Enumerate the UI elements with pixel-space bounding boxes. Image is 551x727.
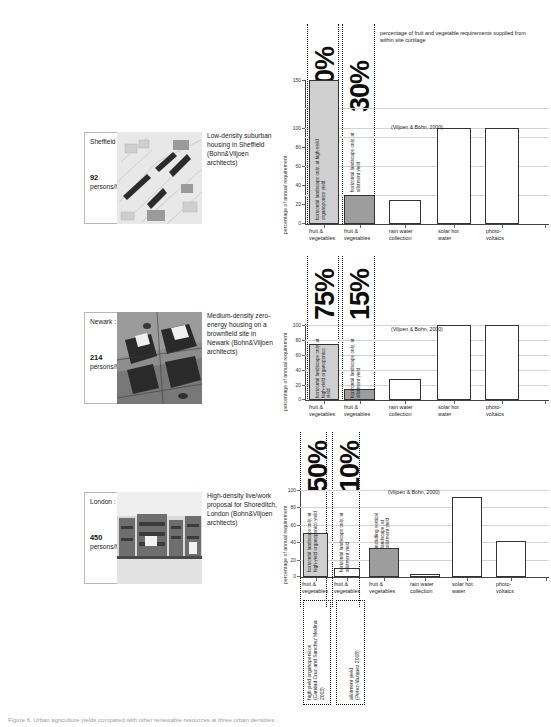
xlabel-3: solar hot water <box>438 228 470 241</box>
x-axis <box>305 400 549 401</box>
case-study-london: London : 450 persons/ha <box>0 470 280 645</box>
plot-area-2: 0 20 40 60 80 100 horizontal landscape o… <box>305 324 549 401</box>
ytick-100: 100 <box>285 323 301 328</box>
chart-source-note: (Viljoen & Bohn, 2000) <box>388 489 468 496</box>
photo-model-london-image <box>117 492 202 584</box>
bar-rain-water <box>410 574 440 577</box>
ytick-0: 0 <box>280 574 296 579</box>
xlabel-4: photo- voltaics <box>486 228 518 241</box>
ytick-80: 80 <box>285 338 301 343</box>
footnote-allotment: allotment yield (Perez-Vazquez 2008) <box>348 604 361 700</box>
bar-photovoltaics <box>485 128 519 224</box>
xlabel-2: fruit & vegetables <box>369 581 401 594</box>
ytick-100: 100 <box>280 488 296 493</box>
aerial-plan-sheffield-image <box>117 132 202 224</box>
case-caption: Low-density suburban housing in Sheffiel… <box>207 131 279 167</box>
bar-rain-water <box>389 379 421 400</box>
x-axis <box>305 224 549 225</box>
bar-note-1: horizontal landscape only, at high-yield… <box>315 338 332 398</box>
y-axis <box>300 488 301 578</box>
bar-rain-water <box>389 200 421 224</box>
ytick-0: 0 <box>285 221 301 226</box>
aerial-photo-newark-image <box>117 312 202 404</box>
xlabel-1: fruit & vegetables <box>344 404 376 417</box>
case-density-value: 214 <box>90 353 102 362</box>
case-study-newark: Newark : 214 persons/ha <box>0 290 280 465</box>
bar-photovoltaics <box>485 325 519 400</box>
ytick-150: 150 <box>285 78 301 83</box>
bar-note-1: horizontal landscape only, at high-yield… <box>307 506 318 572</box>
ytick-100: 100 <box>285 126 301 131</box>
ytick-40: 40 <box>280 540 296 545</box>
y-axis <box>305 80 306 225</box>
chart-london: percentage of annual requirement 50% 10%… <box>280 432 551 612</box>
bar-fruit-veg-allotment <box>344 195 375 224</box>
ytick-40: 40 <box>285 368 301 373</box>
ytick-40: 40 <box>285 183 301 188</box>
xlabel-2: rain water collection <box>389 228 423 241</box>
xlabel-4: solar hot water <box>452 581 482 594</box>
bar-note-2: horizontal landscape only, at allotment … <box>339 506 350 572</box>
bar-solar-hot-water <box>437 325 471 400</box>
xlabel-5: photo- voltaics <box>496 581 526 594</box>
xlabel-0: fruit & vegetables <box>309 228 341 241</box>
gridline-80 <box>300 507 549 508</box>
figure-bottom-caption: Figure 6. Urban agriculture yields compa… <box>8 716 528 725</box>
y-axis <box>305 324 306 401</box>
ytick-60: 60 <box>285 164 301 169</box>
case-caption: Medium-density zero-energy housing on a … <box>207 311 279 356</box>
case-density-value: 450 <box>90 533 102 542</box>
ytick-60: 60 <box>280 523 296 528</box>
bar-note-3: including vertical landscape, at allotme… <box>374 506 391 548</box>
ytick-80: 80 <box>285 145 301 150</box>
bar-note-2: horizontal landscape only, at allotment … <box>350 338 361 398</box>
figure-page: Sheffield : 92 persons/ha <box>0 0 551 727</box>
xlabel-0: fruit & vegetables <box>302 581 332 594</box>
gridline-100 <box>305 108 549 109</box>
xlabel-1: fruit & vegetables <box>344 228 376 241</box>
bar-photovoltaics <box>496 541 526 577</box>
case-density-value: 92 <box>90 173 98 182</box>
xlabel-4: photo- voltaics <box>486 404 518 417</box>
plot-area-3: 0 20 40 60 80 100 horizontal landscape o… <box>300 488 549 578</box>
chart-newark: percentage of annual requirement 75% 15%… <box>280 256 551 426</box>
plot-area-1: 0 20 40 60 80 100 150 horizontal landsca… <box>305 80 549 225</box>
big-percent-1: 75% <box>310 258 341 320</box>
xlabel-2: rain water collection <box>389 404 423 417</box>
big-percent-1: 50% <box>303 434 334 492</box>
chart-source-note: (Viljoen & Bohn, 2000) <box>391 124 447 131</box>
chart-sheffield: percentage of annual requirement 150% 30… <box>280 24 551 254</box>
ytick-20: 20 <box>280 558 296 563</box>
ytick-20: 20 <box>285 383 301 388</box>
chart-source-note: (Viljoen & Bohn, 2000) <box>391 326 447 333</box>
bar-fruit-veg-vertical <box>369 548 399 577</box>
xlabel-1: fruit & vegetables <box>334 581 364 594</box>
bar-note-1: horizontal landscape only, at high-yield… <box>315 112 326 220</box>
gridline-60 <box>300 525 549 526</box>
chart-header-note: percentage of fruit and vegetable requir… <box>380 30 540 44</box>
big-percent-2: 15% <box>345 258 376 320</box>
xlabel-3: solar hot water <box>438 404 470 417</box>
footnote-high-yield: high yield organoponicos (Caridad Cruz a… <box>306 604 325 700</box>
big-percent-2: 10% <box>335 434 366 492</box>
ytick-80: 80 <box>280 505 296 510</box>
y-axis-label: percentage of annual requirement <box>282 484 288 584</box>
xlabel-3: rain water collection <box>410 581 442 594</box>
case-study-sheffield: Sheffield : 92 persons/ha <box>0 110 280 285</box>
ytick-0: 0 <box>285 397 301 402</box>
bar-note-2: horizontal landscape only, at allotment … <box>350 122 361 192</box>
case-caption: High-density live/work proposal for Shor… <box>207 491 279 527</box>
bar-solar-hot-water <box>452 497 482 577</box>
ytick-60: 60 <box>285 353 301 358</box>
xlabel-0: fruit & vegetables <box>309 404 341 417</box>
ytick-20: 20 <box>285 202 301 207</box>
bar-solar-hot-water <box>437 128 471 224</box>
